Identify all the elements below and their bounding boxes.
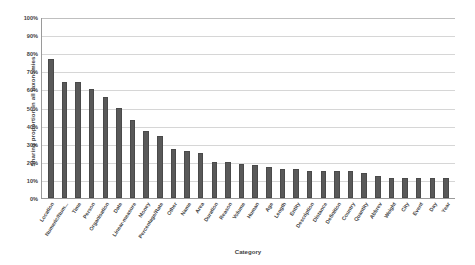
bar (321, 171, 326, 198)
x-axis-tick-label: City (400, 201, 410, 213)
bar-series (42, 18, 455, 198)
bar (171, 149, 176, 198)
y-axis-tick-labels: 100%90%80%70%60%50%40%30%20%10%0% (12, 18, 38, 199)
x-axis-tick-slot: Percentage/Rate (156, 200, 161, 246)
bar (89, 89, 94, 198)
bar (103, 97, 108, 198)
x-axis-tick-slot: Weight (389, 200, 394, 246)
y-axis-tick-label: 0% (12, 196, 38, 202)
bar (416, 178, 421, 198)
x-axis-tick-slot: Event (416, 200, 421, 246)
bar (184, 151, 189, 198)
bar (48, 59, 53, 198)
x-axis-tick-label: Abbrev (368, 201, 383, 220)
bar (225, 162, 230, 198)
x-axis-tick-label: Age (263, 201, 273, 213)
bar (116, 108, 121, 199)
y-axis-tick-label: 90% (12, 33, 38, 39)
x-axis-tick-slot: Volume (238, 200, 243, 246)
bar (443, 178, 448, 198)
bar (252, 165, 257, 198)
bar (375, 176, 380, 198)
x-axis-tick-label: Name (179, 201, 192, 216)
bar (293, 169, 298, 198)
x-axis-tick-slot: Abbrev (375, 200, 380, 246)
x-axis-tick-label: Volume (231, 201, 246, 220)
bar (239, 164, 244, 198)
bar (198, 153, 203, 198)
x-axis-tick-label: Human (245, 201, 260, 219)
bar (334, 171, 339, 198)
x-axis-tick-slot: Area (197, 200, 202, 246)
bar (62, 82, 67, 198)
x-axis-tick-label: Length (273, 201, 287, 219)
y-axis-tick-label: 60% (12, 87, 38, 93)
y-axis-tick-label: 30% (12, 142, 38, 148)
x-axis-title: Category (41, 248, 455, 255)
x-axis-tick-label: Area (194, 201, 205, 214)
x-axis-tick-label: Entity (288, 201, 301, 217)
bar (430, 178, 435, 198)
x-axis-tick-label: Year (440, 201, 451, 214)
x-axis-tick-label: Day (427, 201, 437, 212)
x-axis-tick-slot: Other (170, 200, 175, 246)
x-axis-tick-label: Date (112, 201, 123, 214)
x-axis-tick-label: Time (71, 201, 83, 215)
bar (307, 171, 312, 198)
bar (75, 82, 80, 198)
y-axis-tick-label: 40% (12, 124, 38, 130)
plot-area (41, 18, 455, 199)
y-axis-tick-label: 80% (12, 51, 38, 57)
x-axis-tick-slot: Age (266, 200, 271, 246)
x-axis-tick-slot: Organisation (102, 200, 107, 246)
x-axis-tick-label: Weight (382, 201, 396, 219)
bar (280, 169, 285, 198)
bar (130, 120, 135, 198)
y-axis-tick-label: 20% (12, 160, 38, 166)
x-axis-tick-label: Event (411, 201, 424, 216)
bar (361, 173, 366, 198)
x-axis-tick-slot: Linear-measure (129, 200, 134, 246)
x-axis-tick-slot: Day (430, 200, 435, 246)
bar (266, 167, 271, 198)
y-axis-tick-label: 10% (12, 178, 38, 184)
x-axis-tick-labels: LocationNumeric/Num...TimePersonOrganisa… (41, 200, 455, 246)
x-axis-tick-slot: Definition (334, 200, 339, 246)
x-axis-tick-slot: Country (348, 200, 353, 246)
bar (212, 162, 217, 198)
y-axis-tick-label: 50% (12, 106, 38, 112)
x-axis-tick-slot: City (402, 200, 407, 246)
x-axis-tick-slot: Description (307, 200, 312, 246)
y-axis-tick-label: 70% (12, 69, 38, 75)
y-axis-tick-label: 100% (12, 15, 38, 21)
x-axis-tick-label: Reason (218, 201, 233, 220)
x-axis-tick-slot: Name (184, 200, 189, 246)
bar (157, 136, 162, 198)
x-axis-tick-slot: Human (252, 200, 257, 246)
bar (348, 171, 353, 198)
x-axis-tick-slot: Reason (225, 200, 230, 246)
x-axis-tick-slot: Length (279, 200, 284, 246)
x-axis-tick-slot: Year (443, 200, 448, 246)
bar (143, 131, 148, 198)
x-axis-tick-slot: Quantity (361, 200, 366, 246)
x-axis-tick-label: Other (166, 201, 179, 216)
bar-chart: Sharing proportion in all taxonomies 100… (0, 0, 475, 265)
x-axis-tick-slot: Distance (320, 200, 325, 246)
x-axis-tick-slot: Numeric/Num... (61, 200, 66, 246)
x-axis-tick-slot: Time (74, 200, 79, 246)
bar (389, 178, 394, 198)
x-axis-tick-slot: Duration (211, 200, 216, 246)
bar (402, 178, 407, 198)
